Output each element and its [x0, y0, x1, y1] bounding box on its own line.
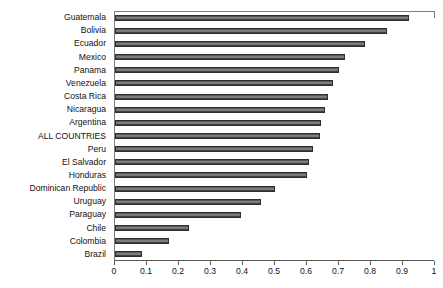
category-label: Costa Rica [0, 91, 106, 101]
bar [115, 28, 387, 34]
category-label: Mexico [0, 52, 106, 62]
axis-tick-mark [274, 261, 275, 265]
category-label: Honduras [0, 170, 106, 180]
bar [115, 15, 409, 21]
category-label: Colombia [0, 236, 106, 246]
bar [115, 251, 142, 257]
category-label: Dominican Republic [0, 183, 106, 193]
horizontal-bar-chart: GuatemalaBoliviaEcuadorMexicoPanamaVenez… [0, 0, 443, 288]
axis-tick-mark [146, 261, 147, 265]
bar [115, 186, 275, 192]
category-label: Brazil [0, 249, 106, 259]
bar [115, 54, 345, 60]
category-label: Argentina [0, 117, 106, 127]
category-label: ALL COUNTRIES [0, 131, 106, 141]
axis-tick-mark [178, 261, 179, 265]
axis-tick-mark [242, 261, 243, 265]
bar [115, 212, 241, 218]
axis-tick-mark [114, 261, 115, 265]
category-label: Peru [0, 144, 106, 154]
category-label: Guatemala [0, 12, 106, 22]
bar [115, 172, 307, 178]
axis-tick-mark [434, 261, 435, 265]
value-axis: 00.10.20.30.40.50.60.70.80.91 [114, 261, 434, 287]
bar [115, 67, 339, 73]
bar [115, 238, 169, 244]
bar [115, 80, 333, 86]
category-axis-labels: GuatemalaBoliviaEcuadorMexicoPanamaVenez… [0, 11, 110, 261]
category-label: El Salvador [0, 157, 106, 167]
category-label: Paraguay [0, 209, 106, 219]
bar [115, 107, 325, 113]
axis-tick-mark [210, 261, 211, 265]
category-label: Nicaragua [0, 104, 106, 114]
bar [115, 146, 313, 152]
category-label: Bolivia [0, 25, 106, 35]
category-label: Panama [0, 65, 106, 75]
category-label: Uruguay [0, 196, 106, 206]
category-label: Ecuador [0, 38, 106, 48]
category-label: Venezuela [0, 78, 106, 88]
bar [115, 133, 320, 139]
bar [115, 225, 189, 231]
bar [115, 94, 328, 100]
axis-tick-mark [338, 261, 339, 265]
axis-tick-mark [306, 261, 307, 265]
bars-layer [115, 11, 435, 261]
category-label: Chile [0, 223, 106, 233]
bar [115, 159, 309, 165]
bar [115, 120, 321, 126]
bar [115, 199, 261, 205]
bar [115, 41, 365, 47]
axis-tick-mark [402, 261, 403, 265]
axis-tick-label: 1 [414, 266, 443, 277]
axis-tick-mark [370, 261, 371, 265]
